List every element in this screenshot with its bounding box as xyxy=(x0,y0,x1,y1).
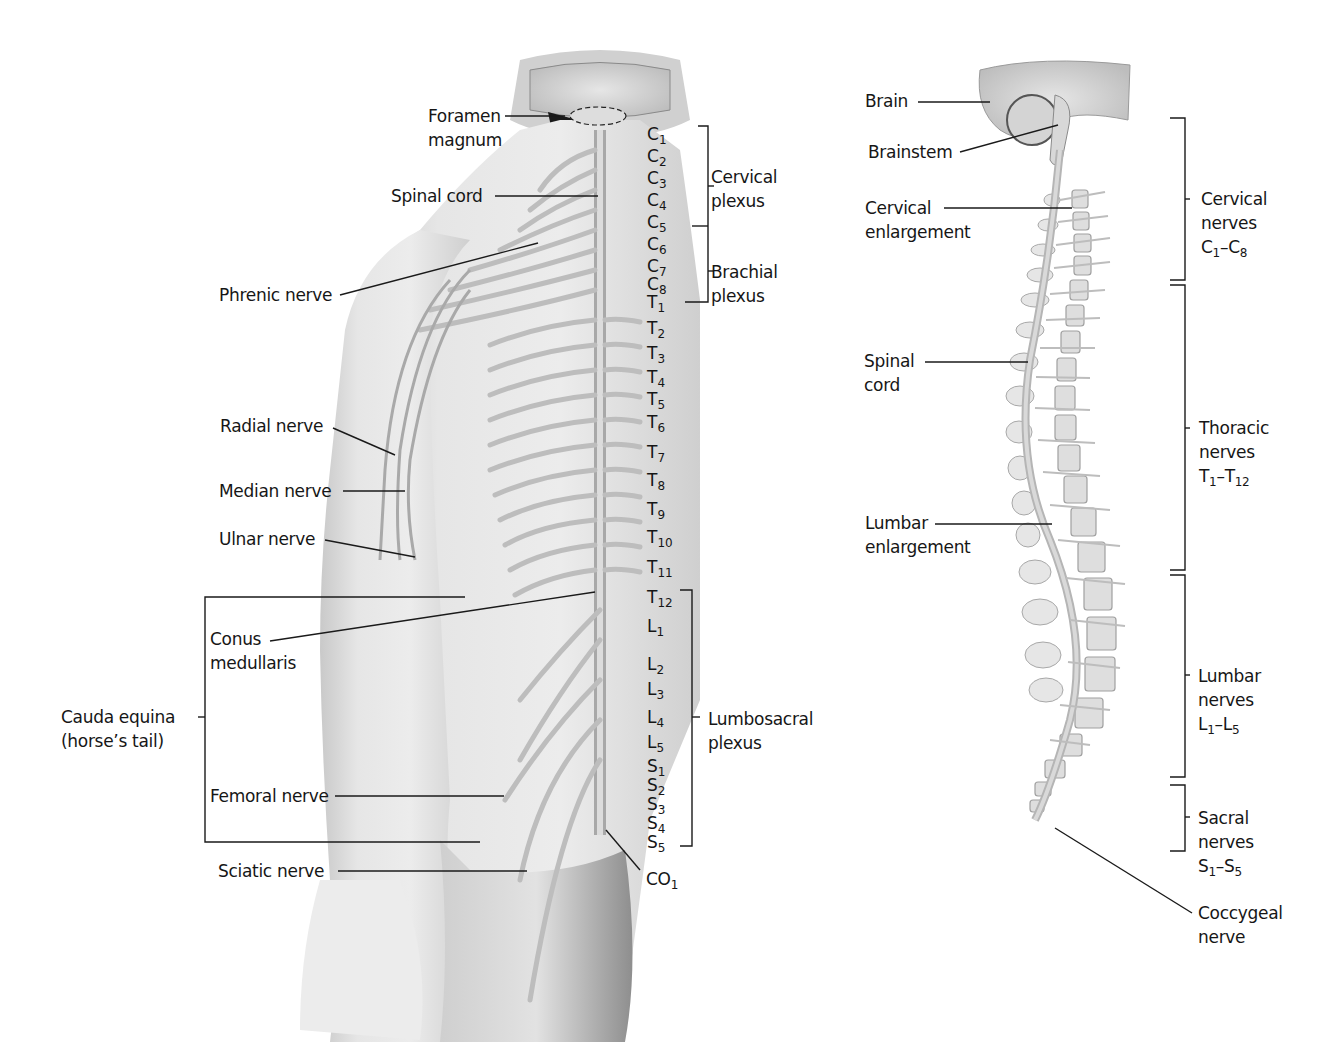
segment-label: T7 xyxy=(647,440,665,464)
nerve-group-word: nerves xyxy=(1198,688,1261,712)
label-conus-medullaris-line1: Conus xyxy=(210,627,261,651)
segment-label: L3 xyxy=(647,677,664,701)
nerve-group-range: L1–L5 xyxy=(1198,712,1261,736)
label-brachial-plexus-line2: plexus xyxy=(711,284,765,308)
segment-label: T11 xyxy=(647,555,673,579)
label-cauda-equina-line2: (horse’s tail) xyxy=(61,729,164,753)
segment-label: T4 xyxy=(647,365,665,389)
segment-label: T3 xyxy=(647,341,665,365)
label-coccygeal-segment: CO1 xyxy=(646,867,678,891)
nerve-group-sacral: Sacral nerves S1–S5 xyxy=(1198,806,1254,878)
label-radial-nerve: Radial nerve xyxy=(220,414,323,438)
label-brain: Brain xyxy=(865,89,908,113)
nerve-group-name: Lumbar xyxy=(1198,664,1261,688)
segment-label: L5 xyxy=(647,730,664,754)
segment-label: T8 xyxy=(647,468,665,492)
nerve-group-range: C1–C8 xyxy=(1201,235,1267,259)
segment-label: T5 xyxy=(647,387,665,411)
nerve-group-range: S1–S5 xyxy=(1198,854,1254,878)
label-cervical-plexus-line2: plexus xyxy=(711,189,765,213)
label-sciatic-nerve: Sciatic nerve xyxy=(218,859,324,883)
segment-label: T2 xyxy=(647,316,665,340)
label-cervical-enlargement-line2: enlargement xyxy=(865,220,970,244)
segment-label: T9 xyxy=(647,497,665,521)
label-spinal-cord-lateral-line2: cord xyxy=(864,373,900,397)
label-femoral-nerve: Femoral nerve xyxy=(210,784,329,808)
nerve-group-cervical: Cervical nerves C1–C8 xyxy=(1201,187,1267,259)
segment-label: C1 xyxy=(647,122,667,146)
label-lumbosacral-plexus-line2: plexus xyxy=(708,731,762,755)
nerve-group-word: nerves xyxy=(1201,211,1267,235)
segment-label: C6 xyxy=(647,232,667,256)
segment-label: C2 xyxy=(647,144,667,168)
label-cervical-plexus-line1: Cervical xyxy=(711,165,777,189)
segment-label: C3 xyxy=(647,166,667,190)
label-cauda-equina-line1: Cauda equina xyxy=(61,705,175,729)
nerve-group-word: nerves xyxy=(1199,440,1269,464)
label-conus-medullaris-line2: medullaris xyxy=(210,651,296,675)
segment-label: T10 xyxy=(647,525,673,549)
label-lumbar-enlargement-line1: Lumbar xyxy=(865,511,928,535)
segment-label: T1 xyxy=(647,290,665,314)
label-coccygeal-nerve-line1: Coccygeal xyxy=(1198,901,1283,925)
nerve-group-range: T1–T12 xyxy=(1199,464,1269,488)
segment-label: T12 xyxy=(647,585,673,609)
label-cervical-enlargement-line1: Cervical xyxy=(865,196,931,220)
label-median-nerve: Median nerve xyxy=(219,479,331,503)
nerve-group-word: nerves xyxy=(1198,830,1254,854)
label-phrenic-nerve: Phrenic nerve xyxy=(219,283,332,307)
label-brainstem: Brainstem xyxy=(868,140,952,164)
label-foramen-magnum-line1: Foramen xyxy=(428,104,501,128)
segment-label: C5 xyxy=(647,210,667,234)
label-spinal-cord-lateral-line1: Spinal xyxy=(864,349,914,373)
label-lumbar-enlargement-line2: enlargement xyxy=(865,535,970,559)
nerve-group-lumbar: Lumbar nerves L1–L5 xyxy=(1198,664,1261,736)
label-lumbosacral-plexus-line1: Lumbosacral xyxy=(708,707,813,731)
label-coccygeal-nerve-line2: nerve xyxy=(1198,925,1245,949)
lateral-brain xyxy=(979,61,1130,165)
nerve-group-name: Thoracic xyxy=(1199,416,1269,440)
nerve-group-thoracic: Thoracic nerves T1–T12 xyxy=(1199,416,1269,488)
label-spinal-cord: Spinal cord xyxy=(391,184,483,208)
segment-label: C4 xyxy=(647,188,667,212)
label-foramen-magnum-line2: magnum xyxy=(428,128,502,152)
segment-label: S5 xyxy=(647,830,665,854)
segment-label: L2 xyxy=(647,652,664,676)
segment-label: L1 xyxy=(647,614,664,638)
segment-label: L4 xyxy=(647,705,664,729)
nerve-group-name: Sacral xyxy=(1198,806,1254,830)
nerve-group-name: Cervical xyxy=(1201,187,1267,211)
segment-label: T6 xyxy=(647,410,665,434)
lateral-spinous-processes xyxy=(1006,194,1063,702)
label-brachial-plexus-line1: Brachial xyxy=(711,260,778,284)
label-ulnar-nerve: Ulnar nerve xyxy=(219,527,315,551)
